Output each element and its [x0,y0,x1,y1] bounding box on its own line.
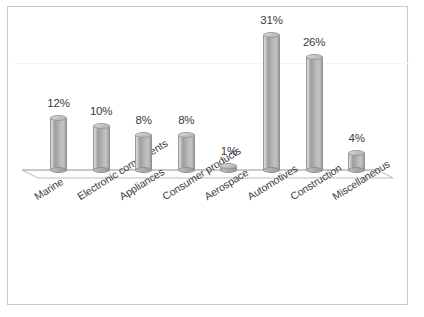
cylinder-body [178,135,195,170]
bar-cylinder[interactable] [348,0,365,317]
cylinder-body [263,35,280,170]
bar-value-label: 4% [334,132,380,144]
chart-container: 12%Marine10%Electronic components8%Appli… [0,0,424,317]
bar-value-label: 10% [78,105,124,117]
bar-value-label: 8% [163,114,209,126]
bar-value-label: 1% [206,145,252,157]
cylinder-top-cap [306,54,323,60]
bar-cylinder[interactable] [263,0,280,317]
cylinder-top-cap [220,163,237,169]
bar-cylinder[interactable] [135,0,152,317]
cylinder-body [135,135,152,170]
cylinder-body [50,118,67,170]
bar-value-label: 26% [291,36,337,48]
bar-value-label: 8% [121,114,167,126]
bar-cylinder[interactable] [220,0,237,317]
bar-value-label: 12% [36,97,82,109]
cylinder-body [306,57,323,170]
cylinder-top-cap [50,115,67,121]
bar-cylinder[interactable] [50,0,67,317]
cylinder-top-cap [263,32,280,38]
bar-cylinder[interactable] [178,0,195,317]
bar-cylinder[interactable] [93,0,110,317]
cylinder-top-cap [348,150,365,156]
bar-value-label: 31% [249,14,295,26]
plot-area: 12%Marine10%Electronic components8%Appli… [0,0,424,317]
cylinder-body [93,126,110,170]
cylinder-bottom-cap [50,167,67,173]
